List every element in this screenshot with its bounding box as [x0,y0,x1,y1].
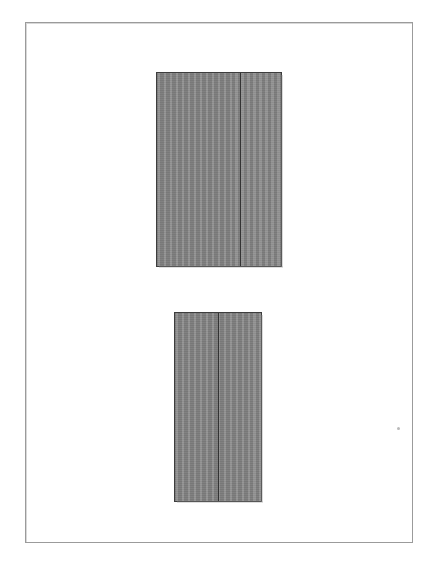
scan-speck-icon [397,427,400,430]
upper-rectangle-edge-bleed-right [281,75,283,267]
lower-rectangle-edge-bleed-bottom [177,501,263,503]
frame-rule-right [412,22,413,543]
lower-rectangle-divider-line [218,313,219,501]
lower-rectangle-edge-bleed-right [261,315,263,502]
frame-ghost-top [26,23,412,24]
frame-ghost-left [26,23,27,542]
scanned-page [0,0,435,564]
upper-rectangle-edge-bleed-bottom [159,266,283,268]
lower-shaded-rectangle [174,312,262,502]
upper-rectangle-divider-line [240,73,241,266]
upper-shaded-rectangle [156,72,282,267]
frame-rule-bottom [25,542,413,543]
